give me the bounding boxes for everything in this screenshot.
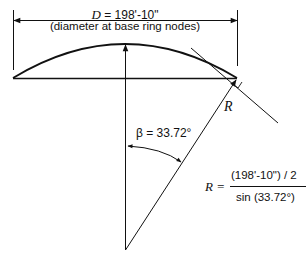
formula-denominator: sin (33.72°) [236,191,295,203]
radius-formula: R = (198'-10") / 2 sin (33.72°) [205,169,306,205]
diameter-caption: (diameter at base ring nodes) [0,20,250,33]
fraction-bar [230,186,306,187]
formula-numerator: (198'-10") / 2 [231,169,297,181]
radius-line [126,80,237,250]
radius-label: R [224,99,233,115]
formula-lhs: R = [205,179,225,195]
beta-angle-label: β = 33.72° [136,126,191,140]
beta-angle-arc [128,146,181,162]
beta-symbol: β [136,126,143,140]
beta-value: = 33.72° [143,126,192,140]
